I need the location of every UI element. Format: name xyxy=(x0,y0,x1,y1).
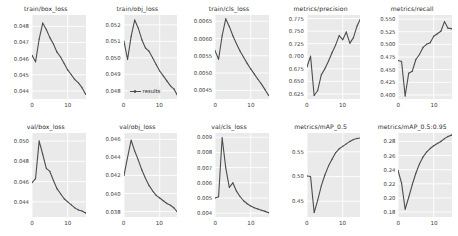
x-axis-tick-label: 0 xyxy=(122,102,126,108)
panel-metrics-precision: metrics/precision0.6250.6500.6750.7000.7… xyxy=(275,0,367,118)
y-axis-tick-label: 0.045 xyxy=(14,72,29,78)
y-axis-tick-label: 0.007 xyxy=(197,165,212,171)
legend: results xyxy=(128,87,163,95)
y-axis-tick-label: 0.004 xyxy=(197,210,212,216)
y-axis-tick-label: 0.050 xyxy=(14,138,29,144)
y-axis-tick-label: 0.525 xyxy=(380,29,395,35)
y-axis-tick-label: 0.45 xyxy=(292,198,304,204)
panel-title: train/box_loss xyxy=(0,5,92,12)
x-axis-tick-label: 0 xyxy=(30,220,34,226)
y-axis-tick-label: 0.046 xyxy=(105,136,120,142)
x-axis-tick-label: 0 xyxy=(213,102,217,108)
y-axis-tick-label: 0.047 xyxy=(14,39,29,45)
plot-area: 0.0380.0400.0420.0440.046010 xyxy=(124,133,178,217)
y-axis-tick-label: 0.700 xyxy=(289,53,304,59)
x-axis-tick-label: 0 xyxy=(122,220,126,226)
y-axis-tick-label: 0.55 xyxy=(292,149,304,155)
x-axis-tick-label: 0 xyxy=(397,102,401,108)
plot-area: 0.0040.0050.0060.0070.0080.009010 xyxy=(215,133,269,217)
x-axis-tick-label: 10 xyxy=(64,102,71,108)
x-axis-tick-label: 0 xyxy=(30,102,34,108)
plot-area: 0.180.200.220.240.260.28010 xyxy=(398,133,452,217)
y-axis-tick-label: 0.725 xyxy=(289,41,304,47)
plot-area: 0.0440.0450.0460.0470.048010 xyxy=(32,15,86,99)
y-axis-tick-label: 0.450 xyxy=(380,67,395,73)
plot-area: 0.0480.0490.0500.0510.052010results xyxy=(124,15,178,99)
panel-metrics-recall: metrics/recall0.4000.4250.4500.4750.5000… xyxy=(366,0,458,118)
y-axis-tick-label: 0.044 xyxy=(105,154,120,160)
y-axis-tick-label: 0.038 xyxy=(105,209,120,215)
panel-metrics-map-0-5: metrics/mAP_0.50.450.500.55010 xyxy=(275,118,367,236)
x-axis-tick-label: 10 xyxy=(156,220,163,226)
y-axis-tick-label: 0.28 xyxy=(384,138,396,144)
plot-area: 0.00450.00500.00550.00600.0065010 xyxy=(215,15,269,99)
x-axis-tick-label: 10 xyxy=(156,102,163,108)
panel-train-obj-loss: train/obj_loss0.0480.0490.0500.0510.0520… xyxy=(92,0,184,118)
axes-background: 0.4000.4250.4500.4750.5000.5250.550010 xyxy=(398,15,452,99)
x-axis-tick-label: 10 xyxy=(64,220,71,226)
y-axis-tick-label: 0.20 xyxy=(384,195,396,201)
x-axis-tick-label: 0 xyxy=(305,102,309,108)
y-axis-tick-label: 0.500 xyxy=(380,41,395,47)
x-axis-tick-label: 10 xyxy=(431,220,438,226)
plot-area: 0.0440.0460.0480.050010 xyxy=(32,133,86,217)
y-axis-tick-label: 0.005 xyxy=(197,195,212,201)
y-axis-tick-label: 0.008 xyxy=(197,149,212,155)
y-axis-tick-label: 0.400 xyxy=(380,92,395,98)
y-axis-tick-label: 0.775 xyxy=(289,16,304,22)
axes-background: 0.0380.0400.0420.0440.046010 xyxy=(124,133,178,217)
y-axis-tick-label: 0.0060 xyxy=(194,36,213,42)
y-axis-tick-label: 0.042 xyxy=(105,172,120,178)
axes-background: 0.0440.0450.0460.0470.048010 xyxy=(32,15,86,99)
y-axis-tick-label: 0.18 xyxy=(384,209,396,215)
y-axis-tick-label: 0.040 xyxy=(105,191,120,197)
panel-title: metrics/precision xyxy=(275,5,367,12)
y-axis-tick-label: 0.22 xyxy=(384,181,396,187)
y-axis-tick-label: 0.650 xyxy=(289,78,304,84)
axes-background: 0.0040.0050.0060.0070.0080.009010 xyxy=(215,133,269,217)
panel-train-cls-loss: train/cls_loss0.00450.00500.00550.00600.… xyxy=(183,0,275,118)
y-axis-tick-label: 0.009 xyxy=(197,134,212,140)
axes-background: 0.450.500.55010 xyxy=(307,133,361,217)
y-axis-tick-label: 0.048 xyxy=(14,158,29,164)
axes-background: 0.0440.0460.0480.050010 xyxy=(32,133,86,217)
y-axis-tick-label: 0.550 xyxy=(380,16,395,22)
legend-label: results xyxy=(143,88,161,94)
y-axis-tick-label: 0.044 xyxy=(14,88,29,94)
x-axis-tick-label: 0 xyxy=(305,220,309,226)
y-axis-tick-label: 0.24 xyxy=(384,167,396,173)
legend-line-swatch xyxy=(130,91,141,92)
x-axis-tick-label: 10 xyxy=(247,102,254,108)
y-axis-tick-label: 0.675 xyxy=(289,66,304,72)
plot-area: 0.4000.4250.4500.4750.5000.5250.550010 xyxy=(398,15,452,99)
y-axis-tick-label: 0.050 xyxy=(105,55,120,61)
x-axis-tick-label: 10 xyxy=(431,102,438,108)
plot-area: 0.450.500.55010 xyxy=(307,133,361,217)
plot-area: 0.6250.6500.6750.7000.7250.7500.775010 xyxy=(307,15,361,99)
y-axis-tick-label: 0.475 xyxy=(380,54,395,60)
x-axis-tick-label: 0 xyxy=(397,220,401,226)
x-axis-tick-label: 10 xyxy=(339,220,346,226)
panel-title: metrics/mAP_0.5:0.95 xyxy=(366,123,458,130)
y-axis-tick-label: 0.048 xyxy=(14,23,29,29)
y-axis-tick-label: 0.425 xyxy=(380,79,395,85)
axes-background: 0.6250.6500.6750.7000.7250.7500.775010 xyxy=(307,15,361,99)
y-axis-tick-label: 0.0045 xyxy=(194,87,213,93)
panel-title: val/obj_loss xyxy=(92,123,184,130)
panel-title: val/cls_loss xyxy=(183,123,275,130)
y-axis-tick-label: 0.750 xyxy=(289,28,304,34)
y-axis-tick-label: 0.044 xyxy=(14,199,29,205)
axes-background: 0.00450.00500.00550.00600.0065010 xyxy=(215,15,269,99)
y-axis-tick-label: 0.046 xyxy=(14,56,29,62)
axes-background: 0.180.200.220.240.260.28010 xyxy=(398,133,452,217)
panel-title: train/obj_loss xyxy=(92,5,184,12)
y-axis-tick-label: 0.0055 xyxy=(194,53,213,59)
y-axis-tick-label: 0.625 xyxy=(289,91,304,97)
y-axis-tick-label: 0.26 xyxy=(384,153,396,159)
panel-title: train/cls_loss xyxy=(183,5,275,12)
y-axis-tick-label: 0.0050 xyxy=(194,70,213,76)
x-axis-tick-label: 10 xyxy=(247,220,254,226)
y-axis-tick-label: 0.046 xyxy=(14,179,29,185)
panel-metrics-map-0-5-0-95: metrics/mAP_0.5:0.950.180.200.220.240.26… xyxy=(366,118,458,236)
y-axis-tick-label: 0.50 xyxy=(292,173,304,179)
